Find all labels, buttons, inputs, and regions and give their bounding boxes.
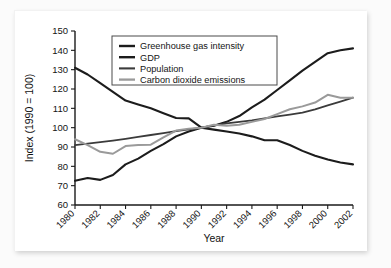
legend-label-1: GDP bbox=[140, 53, 160, 63]
y-tick-label: 80 bbox=[57, 161, 68, 172]
y-tick-label: 90 bbox=[57, 141, 68, 152]
chart-legend: Greenhouse gas intensityGDPPopulationCar… bbox=[112, 36, 277, 85]
chart-card: 60708090100110120130140150 1980198219841… bbox=[14, 10, 366, 250]
y-tick-label: 150 bbox=[52, 25, 68, 36]
x-axis-title: Year bbox=[203, 232, 225, 244]
legend-label-3: Carbon dioxide emissions bbox=[140, 75, 246, 85]
y-tick-label: 70 bbox=[57, 180, 68, 191]
y-tick-label: 120 bbox=[52, 83, 68, 94]
y-axis-title: Index (1990 = 100) bbox=[23, 74, 35, 162]
chart-page: 60708090100110120130140150 1980198219841… bbox=[0, 0, 391, 268]
y-tick-label: 110 bbox=[53, 103, 68, 114]
y-tick-label: 100 bbox=[52, 122, 68, 133]
line-chart: 60708090100110120130140150 1980198219841… bbox=[15, 11, 367, 251]
legend-label-0: Greenhouse gas intensity bbox=[140, 41, 245, 51]
y-tick-label: 130 bbox=[52, 64, 68, 75]
y-tick-label: 140 bbox=[52, 45, 68, 56]
legend-label-2: Population bbox=[140, 64, 183, 74]
